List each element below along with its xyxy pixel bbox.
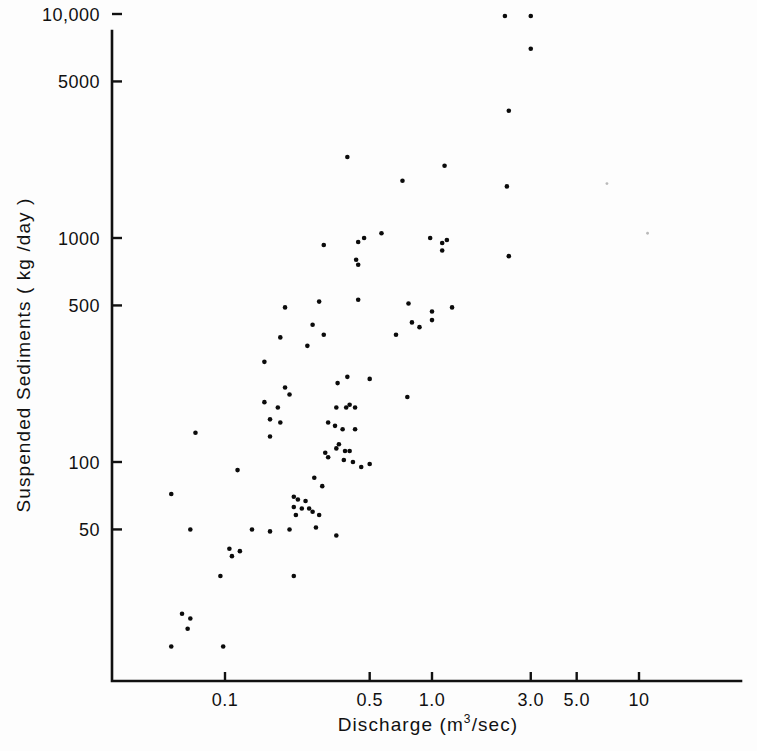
data-point bbox=[340, 427, 345, 432]
data-point bbox=[354, 257, 359, 262]
data-point bbox=[292, 494, 297, 499]
y-tick-label: 10,000 bbox=[42, 5, 100, 25]
data-point bbox=[334, 446, 339, 451]
data-point bbox=[268, 529, 273, 534]
data-point bbox=[347, 449, 352, 454]
data-point bbox=[278, 335, 283, 340]
x-tick-label: 10 bbox=[628, 690, 649, 710]
data-point bbox=[345, 375, 350, 380]
data-point bbox=[283, 305, 288, 310]
y-tick-label: 500 bbox=[68, 296, 100, 316]
data-point bbox=[505, 184, 510, 189]
data-points-group bbox=[169, 14, 533, 649]
data-point bbox=[356, 262, 361, 267]
data-point bbox=[362, 236, 367, 241]
x-axis-tick-marks bbox=[225, 672, 639, 681]
x-tick-label: 0.5 bbox=[356, 690, 383, 710]
data-point bbox=[235, 468, 240, 473]
data-point bbox=[292, 505, 297, 510]
y-axis-tick-labels: 501005001000500010,000 bbox=[42, 5, 100, 540]
data-point bbox=[317, 299, 322, 304]
data-point bbox=[321, 332, 326, 337]
data-point bbox=[356, 240, 361, 245]
data-point bbox=[188, 616, 193, 621]
data-point bbox=[342, 458, 347, 463]
data-point bbox=[312, 476, 317, 481]
data-point bbox=[356, 297, 361, 302]
x-axis-title: Discharge (m3/sec) bbox=[338, 712, 519, 735]
data-point bbox=[450, 305, 455, 310]
scan-specks-group bbox=[606, 182, 649, 234]
data-point bbox=[287, 527, 292, 532]
data-point bbox=[326, 420, 331, 425]
scan-speck bbox=[606, 182, 609, 185]
data-point bbox=[359, 465, 364, 470]
y-axis-title: Suspended Sediments ( kg /day ) bbox=[13, 197, 34, 512]
data-point bbox=[276, 405, 281, 410]
y-tick-label: 1000 bbox=[58, 229, 100, 249]
data-point bbox=[334, 533, 339, 538]
scatter-plot-figure: 0.10.51.03.05.010 501005001000500010,000… bbox=[0, 0, 757, 751]
data-point bbox=[185, 627, 190, 632]
data-point bbox=[310, 509, 315, 514]
data-point bbox=[169, 644, 174, 649]
data-point bbox=[334, 405, 339, 410]
data-point bbox=[287, 392, 292, 397]
svg-text:Suspended Sediments ( kg /day: Suspended Sediments ( kg /day ) bbox=[13, 197, 34, 512]
data-point bbox=[507, 254, 512, 259]
data-point bbox=[445, 238, 450, 243]
x-tick-label: 0.1 bbox=[212, 690, 239, 710]
data-point bbox=[379, 231, 384, 236]
data-point bbox=[300, 506, 305, 511]
data-point bbox=[278, 420, 283, 425]
data-point bbox=[218, 574, 223, 579]
data-point bbox=[344, 405, 349, 410]
data-point bbox=[321, 243, 326, 248]
y-tick-label: 100 bbox=[68, 453, 100, 473]
data-point bbox=[400, 179, 405, 184]
data-point bbox=[169, 492, 174, 497]
data-point bbox=[528, 46, 533, 51]
axes-group bbox=[112, 14, 741, 681]
data-point bbox=[405, 395, 410, 400]
data-point bbox=[337, 442, 342, 447]
data-point bbox=[193, 431, 198, 436]
x-axis-tick-labels: 0.10.51.03.05.010 bbox=[212, 690, 650, 710]
data-point bbox=[406, 301, 411, 306]
y-axis-tick-marks bbox=[112, 14, 122, 529]
data-point bbox=[292, 574, 297, 579]
data-point bbox=[335, 381, 340, 386]
data-point bbox=[440, 248, 445, 253]
data-point bbox=[410, 320, 415, 325]
data-point bbox=[367, 462, 372, 467]
data-point bbox=[310, 322, 315, 327]
data-point bbox=[227, 546, 232, 551]
data-point bbox=[353, 427, 358, 432]
x-tick-label: 1.0 bbox=[419, 690, 446, 710]
x-tick-label: 5.0 bbox=[563, 690, 590, 710]
data-point bbox=[180, 612, 185, 617]
data-point bbox=[503, 14, 508, 19]
data-point bbox=[394, 332, 399, 337]
data-point bbox=[326, 455, 331, 460]
data-point bbox=[323, 450, 328, 455]
data-point bbox=[238, 549, 243, 554]
data-point bbox=[283, 385, 288, 390]
data-point bbox=[230, 554, 235, 559]
x-tick-label: 3.0 bbox=[517, 690, 544, 710]
axis-lines bbox=[112, 31, 741, 681]
data-point bbox=[320, 484, 325, 489]
data-point bbox=[507, 108, 512, 113]
data-point bbox=[314, 525, 319, 530]
data-point bbox=[428, 236, 433, 241]
data-point bbox=[333, 424, 338, 429]
data-point bbox=[188, 527, 193, 532]
data-point bbox=[417, 325, 422, 330]
data-point bbox=[430, 309, 435, 314]
data-point bbox=[262, 360, 267, 365]
data-point bbox=[305, 344, 310, 349]
plot-canvas: 0.10.51.03.05.010 501005001000500010,000… bbox=[0, 0, 757, 751]
data-point bbox=[268, 417, 273, 422]
svg-text:Discharge (m3/sec): Discharge (m3/sec) bbox=[338, 712, 519, 735]
data-point bbox=[294, 513, 299, 518]
